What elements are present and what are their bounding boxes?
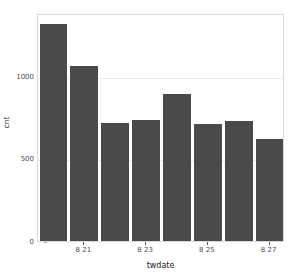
bar: [256, 139, 284, 241]
bar-series: [38, 15, 283, 241]
x-axis-title-label: twdate: [147, 261, 175, 270]
bar: [132, 120, 160, 241]
x-axis-tick-mark: [145, 242, 146, 245]
y-axis-tick-labels: 05001000: [10, 0, 34, 245]
x-axis-tick-labels: 8 218 238 258 27: [37, 246, 284, 258]
plot-panel: [37, 14, 284, 242]
bar: [163, 94, 191, 241]
bar: [194, 124, 222, 241]
bar: [225, 121, 253, 241]
x-axis-tick-label: 8 23: [137, 246, 153, 254]
x-axis-tick-mark: [207, 242, 208, 245]
x-axis-tick-mark: [269, 242, 270, 245]
x-axis-title: twdate: [37, 261, 284, 270]
bar: [70, 66, 98, 241]
y-axis-tick-label: 500: [21, 155, 34, 163]
bar-chart: cnt 05001000 8 218 238 258 27 twdate: [0, 0, 289, 279]
x-axis-tick-mark: [83, 242, 84, 245]
y-axis-tick-label: 1000: [16, 73, 34, 81]
y-axis-tick-label: 0: [30, 238, 34, 246]
x-axis-tick-label: 8 21: [76, 246, 92, 254]
x-axis-tick-label: 8 27: [261, 246, 277, 254]
bar: [40, 24, 68, 241]
x-axis-tick-label: 8 25: [199, 246, 215, 254]
bar: [101, 123, 129, 241]
